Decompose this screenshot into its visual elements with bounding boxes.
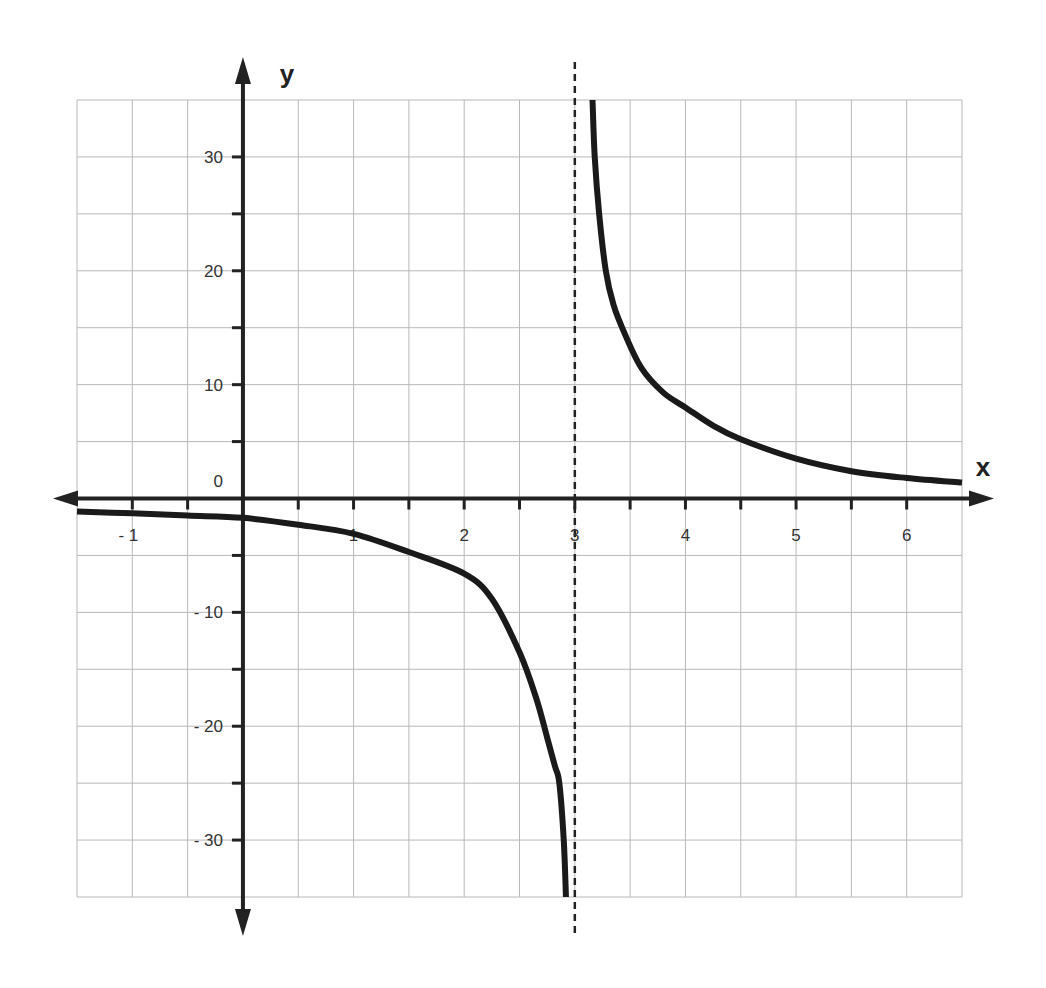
x-tick-label: 4 [681, 526, 690, 545]
y-tick-label: - 30 [194, 831, 223, 850]
x-axis-left-arrow-icon [53, 491, 78, 507]
y-tick-label: 0 [213, 472, 222, 491]
y-tick-label: 10 [204, 376, 223, 395]
y-axis-label: y [280, 59, 295, 89]
curve-left-branch [77, 512, 566, 897]
x-tick-label: 3 [570, 526, 579, 545]
y-axis-up-arrow-icon [235, 57, 251, 84]
y-tick-label: 30 [204, 148, 223, 167]
y-tick-label: - 10 [194, 603, 223, 622]
hyperbola-chart: - 11234563020100- 10- 20- 30 x y [0, 0, 1046, 988]
x-axis-right-arrow-icon [969, 491, 994, 507]
x-tick-label: 6 [902, 526, 911, 545]
x-tick-label: - 1 [118, 526, 138, 545]
x-tick-label: 5 [791, 526, 800, 545]
y-tick-label: - 20 [194, 717, 223, 736]
axes [53, 57, 994, 936]
y-axis-down-arrow-icon [235, 909, 251, 936]
x-tick-label: 2 [459, 526, 468, 545]
y-tick-label: 20 [204, 262, 223, 281]
x-axis-label: x [976, 452, 991, 482]
